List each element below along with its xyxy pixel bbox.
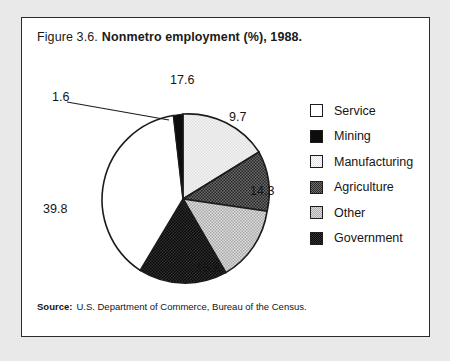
legend-swatch-service-icon [310,104,323,117]
figure-frame: Figure 3.6.Nonmetro employment (%), 1988… [21,17,430,337]
mining-leader-line [67,102,169,120]
slice-value-manufacturing: 17.6 [170,73,194,87]
slice-value-government: 16.8 [196,261,220,275]
chart-legend: Service Mining Manufacturing Agriculture… [310,98,430,251]
legend-label-manufacturing: Manufacturing [334,156,413,169]
legend-item-mining: Mining [310,124,430,150]
legend-label-government: Government [334,232,403,245]
legend-swatch-mining-icon [310,130,323,143]
slice-value-other: 14.3 [250,184,274,198]
legend-swatch-other-icon [310,206,323,219]
legend-item-other: Other [310,200,430,226]
source-note: Source:U.S. Department of Commerce, Bure… [37,301,307,312]
slice-value-mining: 1.6 [52,90,69,104]
legend-item-agriculture: Agriculture [310,175,430,201]
legend-item-manufacturing: Manufacturing [310,149,430,175]
legend-swatch-agriculture-icon [310,181,323,194]
source-text: U.S. Department of Commerce, Bureau of t… [76,301,306,312]
pie-chart: 17.6 9.7 14.3 16.8 39.8 1.6 Service Mini… [22,18,431,338]
legend-item-service: Service [310,98,430,124]
source-label: Source: [37,301,72,312]
slice-value-service: 39.8 [43,202,67,216]
legend-swatch-manufacturing-icon [310,155,323,168]
legend-label-mining: Mining [334,130,371,143]
legend-label-service: Service [334,105,376,118]
legend-label-other: Other [334,207,365,220]
legend-label-agriculture: Agriculture [334,181,394,194]
legend-swatch-government-icon [310,232,323,245]
slice-value-agriculture: 9.7 [229,110,246,124]
legend-item-government: Government [310,226,430,252]
